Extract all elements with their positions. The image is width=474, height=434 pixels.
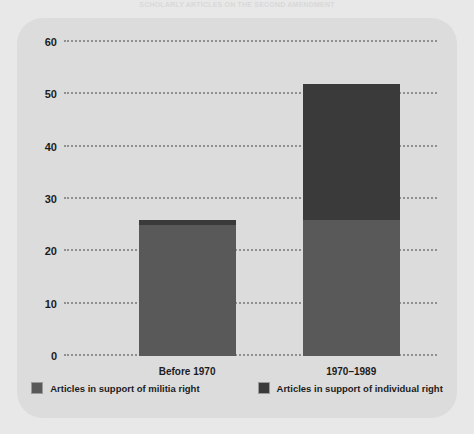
y-axis-tick-label: 0 (51, 350, 57, 362)
y-axis-tick-label: 20 (45, 245, 57, 257)
y-axis-tick-label: 30 (45, 193, 57, 205)
y-axis-tick-label: 10 (45, 298, 57, 310)
legend-swatch (31, 382, 43, 394)
y-axis-tick-label: 60 (45, 36, 57, 48)
bar-stack[interactable] (139, 220, 236, 356)
bar-group: 1970–1989 (303, 84, 400, 356)
chart-caption: SCHOLARLY ARTICLES ON THE SECOND AMENDME… (0, 0, 474, 14)
legend-swatch (258, 382, 270, 394)
y-axis-tick-label: 40 (45, 141, 57, 153)
legend-label: Articles in support of individual right (277, 383, 443, 394)
bar-group: Before 1970 (139, 220, 236, 356)
legend-label: Articles in support of militia right (50, 383, 199, 394)
chart-legend: Articles in support of militia rightArti… (17, 382, 457, 394)
bar-segment[interactable] (303, 84, 400, 220)
x-axis-tick-label: Before 1970 (159, 366, 216, 377)
x-axis-tick-label: 1970–1989 (326, 366, 376, 377)
gridline: 60 (64, 40, 437, 42)
chart-panel: 0102030405060Before 19701970–1989 Articl… (17, 18, 457, 418)
y-axis-tick-label: 50 (45, 88, 57, 100)
legend-item[interactable]: Articles in support of individual right (258, 382, 443, 394)
legend-item[interactable]: Articles in support of militia right (31, 382, 199, 394)
bar-segment[interactable] (303, 220, 400, 356)
bar-stack[interactable] (303, 84, 400, 356)
bar-segment[interactable] (139, 225, 236, 356)
plot-area: 0102030405060Before 19701970–1989 (64, 42, 437, 356)
